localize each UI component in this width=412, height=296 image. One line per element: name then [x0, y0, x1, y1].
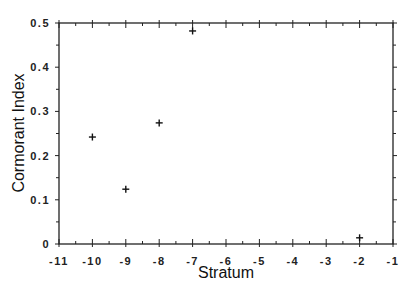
- x-tick-label: -8: [153, 255, 166, 267]
- data-point-marker: [89, 134, 96, 141]
- data-point-marker: [189, 27, 196, 34]
- x-tick-label: -9: [119, 255, 132, 267]
- x-tick-label: -4: [286, 255, 299, 267]
- y-axis-ticks: 00.10.20.30.40.5: [30, 17, 397, 250]
- data-point-marker: [356, 234, 363, 241]
- y-axis-title: Cormorant Index: [10, 73, 27, 192]
- x-axis-ticks: -11-10-9-8-7-6-5-4-3-2-1: [49, 20, 399, 267]
- y-tick-label: 0: [42, 238, 50, 250]
- x-tick-label: -1: [387, 255, 400, 267]
- plot-frame: [59, 23, 393, 244]
- x-tick-label: -3: [320, 255, 333, 267]
- x-tick-label: -10: [82, 255, 102, 267]
- y-tick-label: 0.4: [30, 61, 50, 73]
- x-tick-label: -11: [49, 255, 69, 267]
- scatter-chart: -11-10-9-8-7-6-5-4-3-2-1 00.10.20.30.40.…: [0, 0, 412, 296]
- y-tick-label: 0.1: [30, 194, 50, 206]
- y-tick-label: 0.2: [30, 150, 50, 162]
- data-point-marker: [122, 186, 129, 193]
- x-tick-label: -2: [353, 255, 366, 267]
- plot-border: [59, 23, 393, 244]
- x-tick-label: -5: [253, 255, 266, 267]
- x-axis-title: Stratum: [198, 264, 254, 281]
- data-point-marker: [156, 119, 163, 126]
- y-tick-label: 0.3: [30, 105, 50, 117]
- data-points: [89, 27, 363, 241]
- y-tick-label: 0.5: [30, 17, 50, 29]
